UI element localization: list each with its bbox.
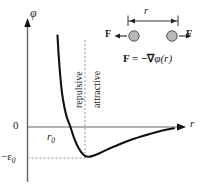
phi-axis-label: φ (30, 7, 37, 19)
y-axis-well-depth-tick-label: −ε0 (1, 151, 16, 165)
potential-energy-chart (0, 0, 204, 186)
well-depth-subscript: 0 (12, 156, 16, 165)
formula-operator: = −∇ (129, 52, 154, 64)
inset-force-right-label: F (186, 29, 192, 39)
separation-left-arrowhead (130, 18, 136, 23)
r-axis-label: r (190, 118, 194, 129)
repulsive-region-label: repulsive (74, 71, 84, 108)
well-depth-symbol: −ε (1, 150, 12, 162)
attractive-region-label: attractive (92, 71, 102, 108)
formula-potential: φ(r) (154, 52, 172, 64)
inset-formula: F = −∇φ(r) (123, 53, 172, 64)
x-axis-r0-tick-label: r0 (47, 131, 55, 145)
r0-subscript: 0 (51, 136, 55, 145)
y-axis-zero-tick-label: 0 (13, 120, 19, 131)
inset-force-left-label: F (105, 29, 111, 39)
force-left-arrowhead (115, 34, 121, 39)
r-axis-arrowhead (177, 124, 186, 131)
inset-force-diagram (115, 16, 192, 42)
particle-right (167, 31, 177, 41)
separation-right-arrowhead (171, 18, 177, 23)
inset-separation-label: r (144, 6, 148, 16)
particle-left (129, 31, 139, 41)
